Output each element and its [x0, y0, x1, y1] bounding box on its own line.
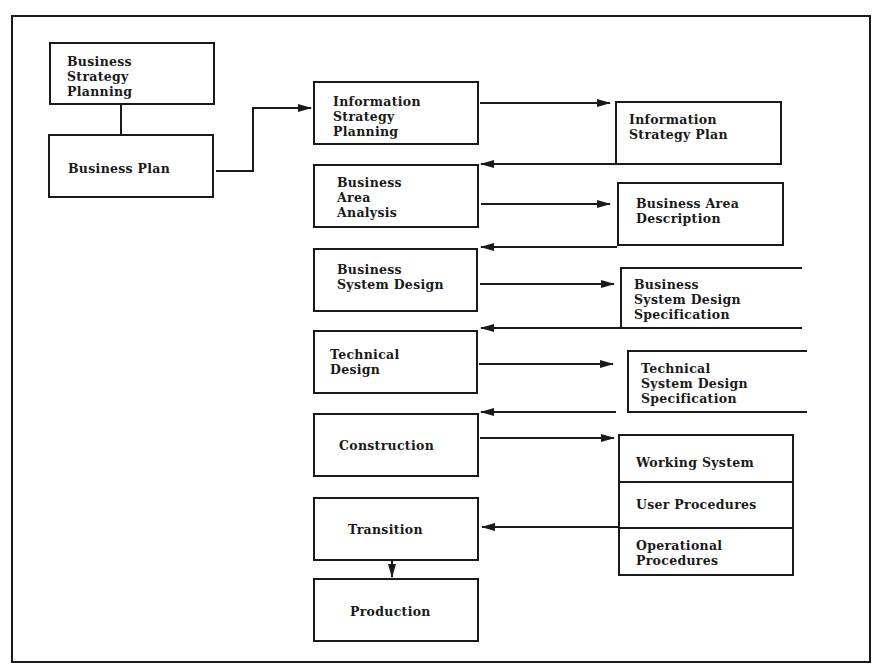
- connectors: [0, 0, 882, 669]
